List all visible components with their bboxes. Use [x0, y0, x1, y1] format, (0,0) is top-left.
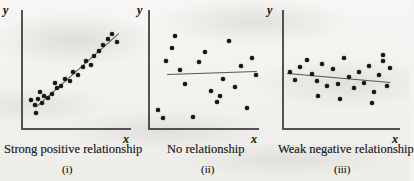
scatter-point [310, 72, 314, 76]
scatter-point [81, 65, 85, 69]
scatter-point [245, 106, 249, 110]
scatter-point [233, 85, 237, 89]
scatter-point [377, 73, 381, 77]
scatter-point [36, 97, 40, 101]
scatter-point [320, 62, 324, 66]
scatter-point [29, 98, 33, 102]
scatter-point [164, 59, 168, 63]
x-axis-line-panel-i [21, 128, 131, 130]
scatter-point [218, 94, 222, 98]
y-axis-line-panel-i [21, 10, 23, 129]
scatter-point [336, 82, 340, 86]
scatter-point [33, 103, 37, 107]
y-axis-label-panel-ii: y [137, 4, 142, 16]
roman-numeral-panel-iii: (iii) [334, 164, 351, 175]
scatter-point [298, 65, 302, 69]
scatter-point [84, 59, 88, 63]
caption-panel-i: Strong positive relationship [4, 143, 142, 156]
scatter-point [381, 53, 385, 57]
scatter-point [161, 116, 165, 120]
scatter-point [370, 101, 374, 105]
scatter-point [227, 39, 231, 43]
y-axis-line-panel-ii [148, 10, 150, 129]
y-axis-label-panel-i: y [3, 4, 8, 16]
scatter-point [63, 77, 67, 81]
scatter-point [293, 78, 297, 82]
scatter-point [173, 34, 177, 38]
scatter-point [352, 86, 356, 90]
scatter-point [250, 56, 254, 60]
scatter-point [372, 90, 376, 94]
scatter-point [40, 101, 44, 105]
scatter-point [170, 46, 174, 50]
scatter-point [347, 75, 351, 79]
scatter-point [76, 73, 80, 77]
scatter-point [92, 54, 96, 58]
scatter-point [254, 73, 258, 77]
scatter-point [325, 84, 329, 88]
scatter-point [239, 64, 243, 68]
scatter-point [221, 77, 225, 81]
scatter-point [53, 81, 57, 85]
scatter-point [89, 63, 93, 67]
scatter-point [59, 84, 63, 88]
scatter-point [191, 115, 195, 119]
scatter-point [34, 111, 38, 115]
scatter-point [215, 100, 219, 104]
scatter-point [342, 56, 346, 60]
scatter-point [115, 40, 119, 44]
scatter-point [315, 79, 319, 83]
scatter-point [50, 92, 54, 96]
scatter-point [357, 70, 361, 74]
scatter-point [110, 32, 114, 36]
scatter-point [71, 70, 75, 74]
scatter-point [288, 70, 292, 74]
scatter-point [156, 108, 160, 112]
scatter-point [97, 49, 101, 53]
scatter-point [331, 67, 335, 71]
roman-numeral-panel-i: (i) [62, 164, 72, 175]
x-axis-line-panel-ii [148, 128, 259, 130]
scatter-point [338, 97, 342, 101]
scatter-point [209, 89, 213, 93]
scatter-point [367, 64, 371, 68]
scatter-point [183, 82, 187, 86]
scatter-point [101, 43, 105, 47]
x-axis-label-panel-ii: x [251, 133, 257, 145]
scatter-point [106, 37, 110, 41]
scatter-point [203, 50, 207, 54]
caption-panel-iii: Weak negative relationship [278, 143, 414, 156]
scatter-point [388, 66, 392, 70]
caption-panel-ii: No relationship [167, 143, 244, 156]
scatter-point [385, 84, 389, 88]
scatter-point [38, 90, 42, 94]
scatter-point [178, 68, 182, 72]
y-axis-label-panel-iii: y [267, 4, 272, 16]
scatter-point [305, 58, 309, 62]
scatter-point [316, 94, 320, 98]
scatter-point [197, 60, 201, 64]
scatter-point [381, 59, 385, 63]
roman-numeral-panel-ii: (ii) [201, 164, 214, 175]
y-axis-line-panel-iii [282, 10, 284, 129]
x-axis-line-panel-iii [282, 128, 400, 130]
scatter-point [46, 96, 50, 100]
scatter-point [68, 79, 72, 83]
scatter-point [362, 81, 366, 85]
